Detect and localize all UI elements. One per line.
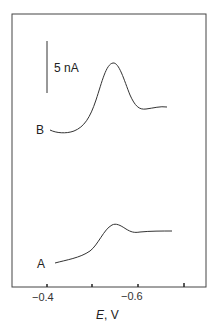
x-axis-label: E, V [96, 309, 119, 321]
curve-b-label: B [36, 124, 44, 136]
x-tick-label-06: −0.6 [121, 291, 143, 302]
plot-frame [12, 14, 206, 287]
x-tick-label-04: −0.4 [32, 292, 54, 303]
chart-canvas [0, 0, 219, 332]
x-axis-unit: , V [104, 308, 119, 322]
curve-a [55, 224, 172, 263]
curve-a-label: A [37, 258, 45, 270]
x-axis-variable: E [96, 308, 104, 322]
scale-bar-label: 5 nA [54, 62, 79, 74]
